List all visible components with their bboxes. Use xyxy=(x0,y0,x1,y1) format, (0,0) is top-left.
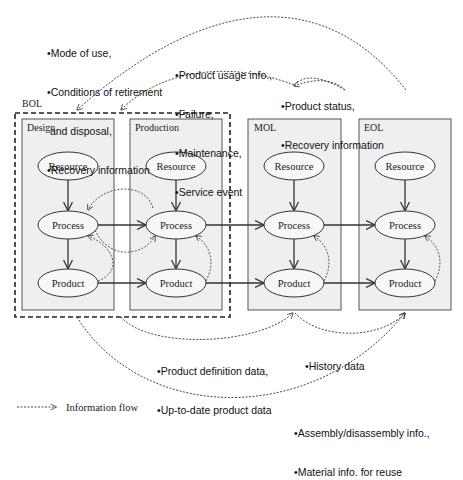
note-line: •History data xyxy=(305,360,365,373)
legend: Information flow xyxy=(17,402,138,413)
note-line: •Up-to-date product data xyxy=(157,404,272,417)
note-line: •Recovery information xyxy=(281,139,384,152)
note-line: •Material info. for reuse xyxy=(294,466,430,479)
note-line: •Service event xyxy=(175,186,272,199)
note-line: •Maintenance, xyxy=(175,147,272,160)
note-line: and disposal, xyxy=(47,125,162,138)
eol-process-node: Process xyxy=(375,211,435,239)
production-process-node: Process xyxy=(146,211,206,239)
svg-text:Process: Process xyxy=(278,220,310,231)
svg-text:Process: Process xyxy=(52,220,84,231)
svg-text:Product: Product xyxy=(52,278,85,289)
note-bol-to-mol: •Product definition data, •Up-to-date pr… xyxy=(157,339,272,430)
arc-mol-to-eol xyxy=(295,313,405,333)
production-product-node: Product xyxy=(146,269,206,297)
svg-text:Process: Process xyxy=(160,220,192,231)
legend-label: Information flow xyxy=(66,402,138,413)
note-line: •Product usage info., xyxy=(175,69,272,82)
svg-text:Resource: Resource xyxy=(385,161,424,172)
note-mol-to-eol: •History data xyxy=(305,334,365,386)
note-eol-to-bol: •Mode of use, •Conditions of retirement … xyxy=(47,21,162,190)
note-line: •Mode of use, xyxy=(47,47,162,60)
note-line: •Conditions of retirement xyxy=(47,86,162,99)
svg-text:Process: Process xyxy=(389,220,421,231)
design-product-node: Product xyxy=(38,269,98,297)
note-line: •Assembly/disassembly info., xyxy=(294,427,430,440)
note-line: •Failure, xyxy=(175,108,272,121)
note-eol-to-mol: •Product status, •Recovery information xyxy=(281,74,384,165)
svg-text:Product: Product xyxy=(389,278,422,289)
mol-process-node: Process xyxy=(264,211,324,239)
mol-product-node: Product xyxy=(264,269,324,297)
note-line: •Recovery information xyxy=(47,164,162,177)
svg-text:Product: Product xyxy=(278,278,311,289)
note-mol-to-bol: •Product usage info., •Failure, •Mainten… xyxy=(175,43,272,212)
eol-resource-node: Resource xyxy=(375,152,435,180)
note-bol-to-eol: •Assembly/disassembly info., •Material i… xyxy=(294,401,430,480)
note-line: •Product status, xyxy=(281,100,384,113)
svg-text:Product: Product xyxy=(160,278,193,289)
eol-product-node: Product xyxy=(375,269,435,297)
note-line: •Product definition data, xyxy=(157,365,272,378)
bol-label: BOL xyxy=(22,98,42,109)
design-process-node: Process xyxy=(38,211,98,239)
